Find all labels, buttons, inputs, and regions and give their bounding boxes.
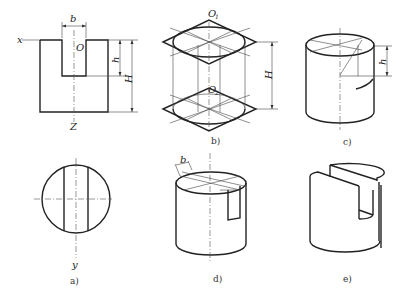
label-y: y <box>71 259 78 270</box>
label-x: x <box>17 34 23 45</box>
label-h: h <box>110 57 121 63</box>
caption-e: e) <box>343 274 352 284</box>
label-H: H <box>123 74 134 84</box>
panel-a-top-view: y a) <box>34 158 112 286</box>
label-b: b <box>70 13 76 24</box>
panel-a-front-view: b O x Z h H <box>17 13 138 132</box>
label-H-b: H <box>263 70 274 80</box>
figure-canvas: b O x Z h H y a) <box>0 0 415 300</box>
caption-a: a) <box>70 276 79 286</box>
caption-d: d) <box>213 274 222 284</box>
label-O: O <box>76 42 84 53</box>
panel-b-isometric-construction: O 1 O 2 H b) <box>163 8 278 146</box>
panel-d-isometric-slot-width: b d) <box>175 153 246 284</box>
caption-b: b) <box>211 136 220 146</box>
panel-c-isometric-cylinder: h c) <box>306 28 392 147</box>
panel-e-finished-slotted-cylinder: e) <box>310 164 384 284</box>
label-O1-sub: 1 <box>215 13 219 20</box>
caption-c: c) <box>343 137 352 147</box>
label-h-c: h <box>377 59 388 65</box>
label-Z: Z <box>69 121 78 132</box>
label-b-d: b <box>180 154 186 165</box>
label-O2-sub: 2 <box>214 89 219 96</box>
